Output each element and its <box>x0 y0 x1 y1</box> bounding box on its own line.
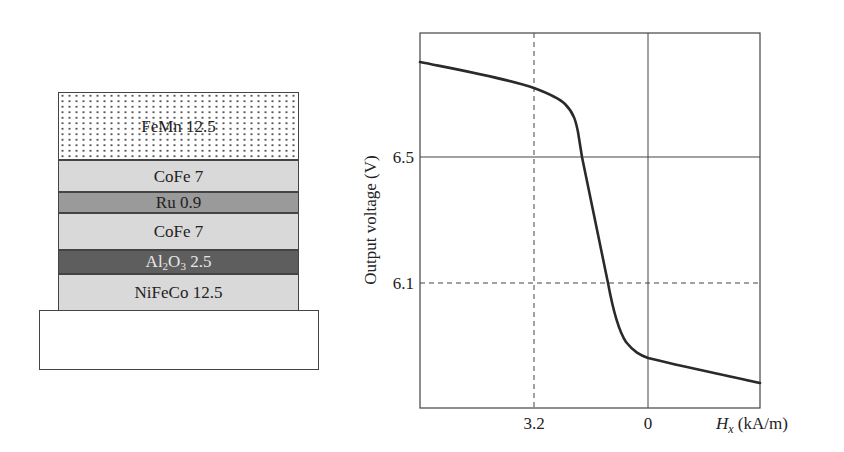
y-tick-6.1: 6.1 <box>393 274 414 293</box>
output-voltage-chart: 6.5 6.1 3.2 0 Hx (kA/m) Output voltage (… <box>0 0 844 452</box>
x-tick-0: 0 <box>644 414 653 433</box>
y-axis-label: Output voltage (V) <box>361 155 380 284</box>
y-tick-6.5: 6.5 <box>393 148 414 167</box>
voltage-curve <box>420 62 760 383</box>
x-axis-label: Hx (kA/m) <box>715 414 788 436</box>
x-tick-3.2: 3.2 <box>523 414 544 433</box>
plot-frame <box>420 33 760 408</box>
x-axis-label-unit: (kA/m) <box>734 414 788 433</box>
